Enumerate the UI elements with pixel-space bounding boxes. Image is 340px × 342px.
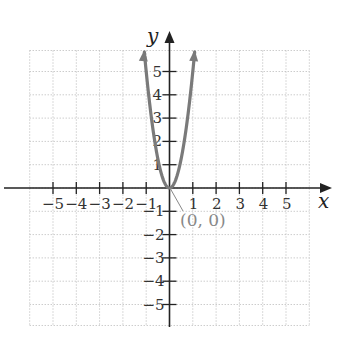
x-tick-label: −4 [65,195,87,213]
parabola-curve [139,50,198,188]
x-tick-label: −2 [112,195,134,213]
y-tick-label: 5 [153,63,163,81]
y-tick-label: −5 [143,296,165,314]
x-tick-label: 5 [282,195,292,213]
y-tick-label: −1 [143,202,165,220]
x-tick-label: −5 [42,195,64,213]
y-tick-label: −4 [143,272,165,290]
x-axis-label: x [318,189,329,213]
x-tick-label: 3 [235,195,245,213]
y-axis-label: y [146,24,159,48]
y-tick-label: −3 [143,249,165,267]
vertex-leader-line [170,188,183,211]
parabola-chart: −5−4−3−2−112345−5−4−3−2−112345 x y (0, 0… [0,0,340,342]
y-tick-label: 4 [153,86,163,104]
y-tick-label: 3 [153,109,163,127]
vertex-label: (0, 0) [180,210,226,230]
x-tick-label: 4 [259,195,269,213]
x-tick-label: −3 [89,195,111,213]
y-tick-label: −2 [143,226,165,244]
